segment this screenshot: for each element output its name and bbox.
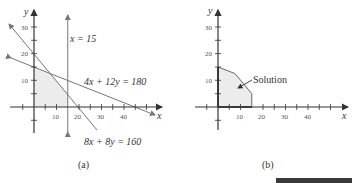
label-x-15: x = 15 [69, 33, 96, 44]
y-tick-10: 10 [21, 77, 29, 85]
x-axis-label: x [156, 110, 162, 121]
solution-label: Solution [253, 74, 287, 85]
x-tick-20: 20 [74, 113, 82, 121]
panel-b: 10 20 30 40 30 20 10 y x Solution (b) [195, 5, 348, 171]
x-tick-10: 10 [52, 113, 60, 121]
x-tick-40: 40 [120, 113, 128, 121]
x-tick-30: 30 [97, 113, 105, 121]
x-tick-40: 40 [304, 113, 312, 121]
solution-region [218, 67, 252, 107]
dark-bar [276, 178, 352, 183]
panel-a: 10 20 30 40 30 20 10 y x x = 15 4x + 12y… [9, 6, 162, 171]
y-tick-20: 20 [205, 50, 213, 58]
caption-a: (a) [78, 159, 89, 171]
caption-b: (b) [262, 159, 274, 171]
label-8x-8y-160: 8x + 8y = 160 [84, 136, 141, 147]
x-axis-label: x [341, 110, 347, 121]
x-tick-10: 10 [236, 113, 244, 121]
y-tick-20: 20 [21, 50, 29, 58]
label-4x-12y-180: 4x + 12y = 180 [84, 76, 146, 87]
y-axis-label: y [23, 6, 29, 17]
y-axis-label: y [207, 5, 213, 16]
y-tick-10: 10 [205, 77, 213, 85]
y-tick-30: 30 [205, 24, 213, 32]
y-tick-30: 30 [21, 24, 29, 32]
x-tick-20: 20 [258, 113, 266, 121]
figure: 10 20 30 40 30 20 10 y x x = 15 4x + 12y… [0, 0, 352, 183]
feasible-region [34, 67, 68, 107]
x-tick-30: 30 [281, 113, 289, 121]
